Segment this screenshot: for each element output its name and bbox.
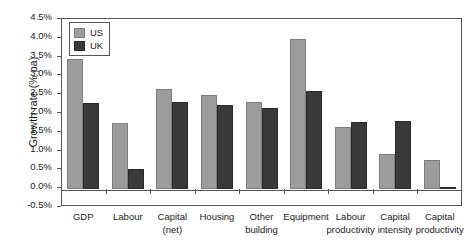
bar-uk-3 — [217, 105, 233, 189]
legend-swatch-uk-icon — [74, 41, 85, 51]
bar-uk-6 — [351, 122, 367, 189]
y-axis-tick-mark — [57, 206, 61, 207]
bar-us-1 — [112, 123, 128, 189]
x-axis-tick-mark — [195, 189, 196, 194]
x-axis-tick-mark — [328, 189, 329, 194]
bar-uk-7 — [395, 121, 411, 189]
legend-label-uk: UK — [90, 40, 103, 51]
y-axis-tick-label: 3.0% — [30, 67, 52, 78]
y-axis-tick-label: 1.0% — [30, 143, 52, 154]
bar-us-5 — [290, 39, 306, 189]
bar-uk-2 — [172, 102, 188, 189]
bar-us-0 — [67, 59, 83, 189]
legend-swatch-us-icon — [74, 28, 85, 38]
legend-item-us: US — [74, 26, 103, 39]
y-axis-tick-label: 0.5% — [30, 161, 52, 172]
x-axis-label: Capitalproductivity — [404, 211, 470, 236]
bar-chart: Growth rate (% pa) 4.5%4.0%3.5%3.0%2.5%2… — [0, 0, 470, 246]
y-axis-tick-label: 4.5% — [30, 11, 52, 22]
x-axis-tick-mark — [284, 189, 285, 194]
x-axis-tick-mark — [106, 189, 107, 194]
y-axis-tick-label: 0.0% — [30, 180, 52, 191]
x-axis-label-line2: productivity — [404, 224, 470, 237]
bar-uk-8 — [440, 187, 456, 189]
legend-item-uk: UK — [74, 39, 103, 52]
y-axis-tick-label: 2.0% — [30, 105, 52, 116]
bar-us-8 — [424, 160, 440, 189]
x-axis-label-line1: GDP — [73, 211, 94, 222]
x-axis-label-line2: (net) — [136, 224, 208, 237]
bar-us-3 — [201, 95, 217, 189]
bar-uk-5 — [306, 91, 322, 189]
chart-legend: US UK — [69, 22, 110, 56]
legend-label-us: US — [90, 27, 103, 38]
x-axis-tick-mark — [239, 189, 240, 194]
bar-us-6 — [335, 127, 351, 189]
x-axis-tick-mark — [373, 189, 374, 194]
bar-us-7 — [379, 154, 395, 189]
y-axis-tick-label: -0.5% — [27, 199, 52, 210]
x-axis-label-line1: Capital — [425, 211, 455, 222]
bar-us-2 — [156, 89, 172, 189]
bar-uk-4 — [262, 108, 278, 189]
bar-uk-0 — [83, 103, 99, 189]
bars-layer — [61, 18, 462, 206]
y-axis-tick-label: 1.5% — [30, 124, 52, 135]
x-axis-tick-mark — [417, 189, 418, 194]
y-axis-tick-label: 4.0% — [30, 30, 52, 41]
x-axis-label-line2: building — [226, 224, 298, 237]
y-axis-tick-label: 3.5% — [30, 49, 52, 60]
bar-uk-1 — [128, 169, 144, 189]
x-axis-tick-mark — [150, 189, 151, 194]
bar-us-4 — [246, 102, 262, 189]
y-axis-tick-label: 2.5% — [30, 86, 52, 97]
